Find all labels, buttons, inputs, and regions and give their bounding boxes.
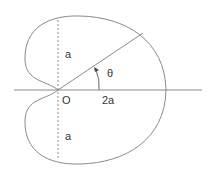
- label-2a: 2a: [102, 94, 115, 106]
- label-origin: O: [62, 94, 71, 106]
- angle-arrowhead-icon: [94, 67, 99, 72]
- label-upper-a: a: [65, 48, 72, 60]
- label-lower-a: a: [65, 130, 72, 142]
- cardioid-diagram: a a O 2a θ: [0, 0, 212, 177]
- radial-line: [58, 33, 143, 90]
- angle-arc: [96, 70, 99, 90]
- label-theta: θ: [107, 67, 113, 79]
